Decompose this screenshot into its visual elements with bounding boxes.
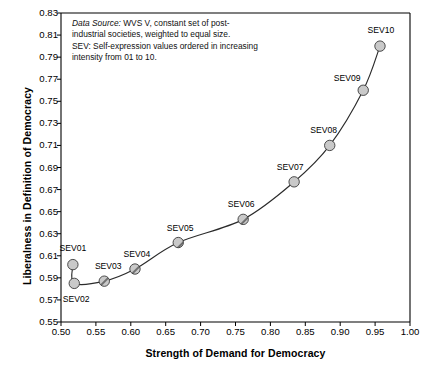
annotation-italic-lead: Data Source: <box>72 18 121 28</box>
data-point-marker <box>99 276 109 286</box>
data-point-label: SEV09 <box>334 73 361 83</box>
annotation-line-4: intensity from 01 to 10. <box>72 52 157 62</box>
data-point-label: SEV10 <box>368 25 395 35</box>
data-point-label: SEV04 <box>124 249 151 259</box>
data-point-marker <box>325 140 335 150</box>
annotation-line-1: WVS V, constant set of post- <box>121 18 230 28</box>
data-point-marker <box>69 278 79 288</box>
annotation-line-2: industrial societies, weighted to equal … <box>72 29 230 39</box>
data-point-label: SEV05 <box>167 223 194 233</box>
data-point-marker <box>68 259 78 269</box>
data-point-label: SEV02 <box>63 294 90 304</box>
data-point-label: SEV07 <box>277 162 304 172</box>
data-point-marker <box>358 85 368 95</box>
data-point-marker <box>289 177 299 187</box>
data-point-marker <box>238 214 248 224</box>
data-point-label: SEV01 <box>59 243 86 253</box>
data-source-annotation: Data Source: WVS V, constant set of post… <box>72 18 290 63</box>
data-point-marker <box>130 264 140 274</box>
data-point-label: SEV08 <box>310 125 337 135</box>
data-point-marker <box>173 237 183 247</box>
data-point-label: SEV06 <box>228 199 255 209</box>
chart-figure: Liberalness in Definition of Democracy 0… <box>0 0 434 372</box>
data-point-marker <box>375 41 385 51</box>
annotation-line-3: SEV: Self-expression values ordered in i… <box>72 41 258 51</box>
data-point-label: SEV03 <box>95 261 122 271</box>
